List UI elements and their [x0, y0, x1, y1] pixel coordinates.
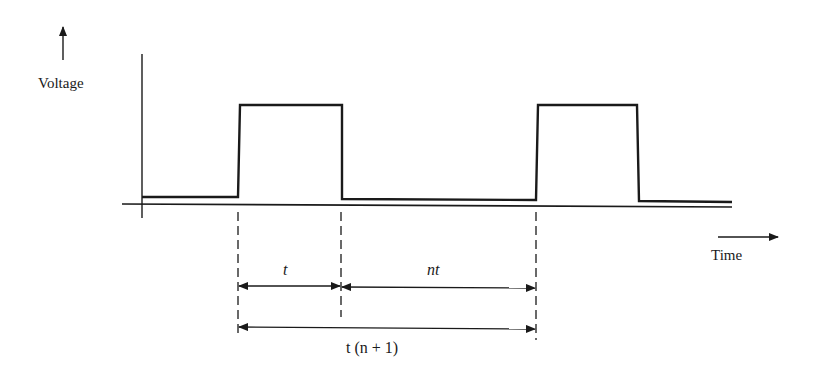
dimension-label-nt: nt [427, 261, 440, 278]
pulse-diagram: Voltage Time t nt t (n + 1) [0, 0, 816, 376]
dimension-arrow-period [239, 327, 535, 329]
x-axis-label: Time [711, 247, 742, 263]
dimension-arrow-nt [342, 287, 535, 288]
dimension-label-period: t (n + 1) [346, 339, 398, 357]
dimension-label-t: t [283, 261, 288, 278]
pulse-waveform [142, 105, 732, 202]
y-axis-label: Voltage [38, 75, 84, 91]
x-axis [122, 204, 732, 207]
